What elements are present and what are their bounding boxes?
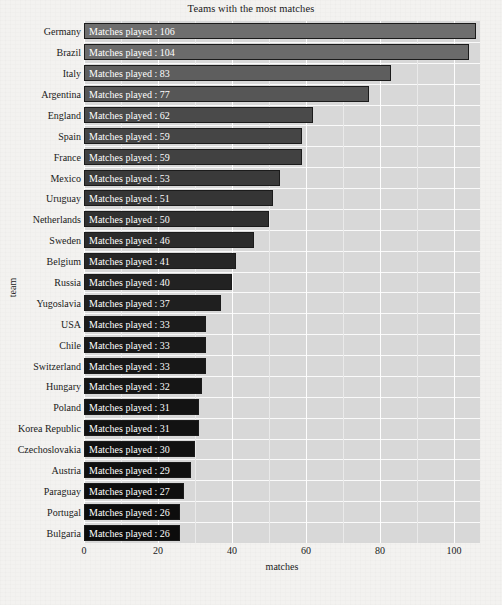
y-axis-tick-label: Argentina: [2, 89, 84, 100]
bar-value-label: Matches played : 83: [89, 68, 170, 79]
x-axis-tick-label: 40: [227, 545, 237, 556]
gridline-horizontal: [84, 459, 480, 460]
gridline-horizontal: [84, 522, 480, 523]
bar-value-label: Matches played : 37: [89, 297, 170, 308]
y-axis-tick-label: Austria: [2, 464, 84, 475]
bar[interactable]: Matches played : 29: [84, 462, 191, 478]
bar[interactable]: Matches played : 33: [84, 316, 206, 332]
gridline-vertical-minor: [417, 21, 418, 543]
bar[interactable]: Matches played : 31: [84, 420, 199, 436]
bar-value-label: Matches played : 33: [89, 360, 170, 371]
gridline-horizontal: [84, 418, 480, 419]
chart-title: Teams with the most matches: [0, 3, 502, 14]
gridline-horizontal: [84, 42, 480, 43]
bar[interactable]: Matches played : 32: [84, 378, 202, 394]
bar-value-label: Matches played : 50: [89, 214, 170, 225]
bar[interactable]: Matches played : 30: [84, 441, 195, 457]
bar-value-label: Matches played : 62: [89, 109, 170, 120]
y-axis-tick-label: Brazil: [2, 47, 84, 58]
plot-panel: Matches played : 106Matches played : 104…: [84, 21, 480, 543]
bar-value-label: Matches played : 59: [89, 151, 170, 162]
gridline-horizontal: [84, 167, 480, 168]
x-axis-tick-label: 100: [447, 545, 462, 556]
y-axis-tick-label: Chile: [2, 339, 84, 350]
bar-value-label: Matches played : 46: [89, 235, 170, 246]
bar-value-label: Matches played : 33: [89, 318, 170, 329]
gridline-horizontal: [84, 355, 480, 356]
bar[interactable]: Matches played : 104: [84, 44, 469, 60]
gridline-horizontal: [84, 146, 480, 147]
bar[interactable]: Matches played : 40: [84, 274, 232, 290]
y-axis-tick-label: Sweden: [2, 235, 84, 246]
gridline-horizontal: [84, 439, 480, 440]
bar-value-label: Matches played : 40: [89, 277, 170, 288]
bar-value-label: Matches played : 104: [89, 47, 175, 58]
bar-value-label: Matches played : 26: [89, 527, 170, 538]
y-axis-tick-label: Italy: [2, 68, 84, 79]
gridline-horizontal: [84, 251, 480, 252]
bar-value-label: Matches played : 30: [89, 444, 170, 455]
gridline-horizontal: [84, 397, 480, 398]
bar[interactable]: Matches played : 53: [84, 170, 280, 186]
bar-value-label: Matches played : 33: [89, 339, 170, 350]
bar-value-label: Matches played : 77: [89, 89, 170, 100]
bar[interactable]: Matches played : 59: [84, 128, 302, 144]
bar[interactable]: Matches played : 83: [84, 65, 391, 81]
bar-value-label: Matches played : 106: [89, 26, 175, 37]
y-axis-tick-label: Switzerland: [2, 360, 84, 371]
gridline-horizontal: [84, 272, 480, 273]
gridline-horizontal: [84, 313, 480, 314]
bar[interactable]: Matches played : 62: [84, 107, 313, 123]
bar-value-label: Matches played : 51: [89, 193, 170, 204]
chart-figure: Teams with the most matches Matches play…: [0, 0, 502, 605]
y-axis-tick-label: Hungary: [2, 381, 84, 392]
gridline-horizontal: [84, 188, 480, 189]
y-axis-tick-label: Poland: [2, 402, 84, 413]
x-axis: 020406080100: [84, 545, 480, 561]
gridline-horizontal: [84, 501, 480, 502]
gridline-vertical-major: [454, 21, 455, 543]
bar[interactable]: Matches played : 77: [84, 86, 369, 102]
bar[interactable]: Matches played : 33: [84, 358, 206, 374]
x-axis-label: matches: [84, 561, 480, 572]
gridline-horizontal: [84, 292, 480, 293]
gridline-horizontal: [84, 334, 480, 335]
y-axis-tick-label: Czechoslovakia: [2, 444, 84, 455]
bar-value-label: Matches played : 32: [89, 381, 170, 392]
bar[interactable]: Matches played : 59: [84, 149, 302, 165]
y-axis-tick-label: Paraguay: [2, 485, 84, 496]
bar[interactable]: Matches played : 51: [84, 190, 273, 206]
x-axis-tick-label: 80: [375, 545, 385, 556]
bar-value-label: Matches played : 26: [89, 506, 170, 517]
x-axis-tick-label: 60: [301, 545, 311, 556]
bar-value-label: Matches played : 27: [89, 485, 170, 496]
y-axis-tick-label: Bulgaria: [2, 527, 84, 538]
y-axis-tick-label: USA: [2, 318, 84, 329]
y-axis-tick-label: Korea Republic: [2, 423, 84, 434]
bar[interactable]: Matches played : 106: [84, 23, 476, 39]
gridline-horizontal: [84, 480, 480, 481]
gridline-horizontal: [84, 84, 480, 85]
bar[interactable]: Matches played : 37: [84, 295, 221, 311]
x-axis-tick-label: 0: [82, 545, 87, 556]
bar[interactable]: Matches played : 41: [84, 253, 236, 269]
gridline-horizontal: [84, 209, 480, 210]
bar-value-label: Matches played : 41: [89, 256, 170, 267]
y-axis-tick-label: Uruguay: [2, 193, 84, 204]
bar[interactable]: Matches played : 26: [84, 525, 180, 541]
bar[interactable]: Matches played : 33: [84, 337, 206, 353]
bar[interactable]: Matches played : 27: [84, 483, 184, 499]
gridline-horizontal: [84, 230, 480, 231]
gridline-vertical-major: [380, 21, 381, 543]
y-axis-label: team: [7, 258, 18, 318]
y-axis-tick-label: France: [2, 151, 84, 162]
bar[interactable]: Matches played : 46: [84, 232, 254, 248]
bar[interactable]: Matches played : 31: [84, 399, 199, 415]
gridline-horizontal: [84, 376, 480, 377]
bar[interactable]: Matches played : 50: [84, 211, 269, 227]
gridline-horizontal: [84, 125, 480, 126]
bar-value-label: Matches played : 31: [89, 423, 170, 434]
bar[interactable]: Matches played : 26: [84, 504, 180, 520]
gridline-horizontal: [84, 105, 480, 106]
bar-value-label: Matches played : 31: [89, 402, 170, 413]
